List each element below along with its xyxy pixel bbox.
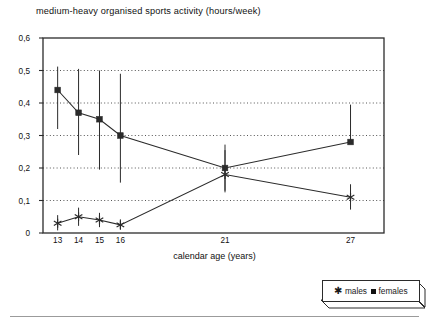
chart-plot-area bbox=[0, 0, 429, 323]
data-point-male bbox=[117, 220, 125, 229]
legend-label-females: females bbox=[379, 286, 408, 296]
series-line-females bbox=[58, 90, 351, 168]
legend-entry-males: ✱ males bbox=[334, 286, 367, 296]
series-line-males bbox=[58, 175, 351, 225]
data-point-female bbox=[97, 116, 103, 122]
x-tick-label: 15 bbox=[95, 236, 104, 245]
data-point-female bbox=[118, 133, 124, 139]
x-tick-label: 21 bbox=[220, 236, 229, 245]
page-divider bbox=[10, 316, 419, 317]
legend-label-males: males bbox=[345, 286, 367, 296]
x-tick-label: 14 bbox=[74, 236, 83, 245]
y-tick-label: 0,5 bbox=[4, 66, 30, 75]
y-tick-label: 0,4 bbox=[4, 99, 30, 108]
data-point-female bbox=[348, 139, 354, 145]
y-tick-label: 0 bbox=[4, 229, 30, 238]
square-marker-icon bbox=[371, 289, 376, 294]
data-point-female bbox=[222, 165, 228, 171]
data-point-female bbox=[55, 87, 61, 93]
legend: ✱ males females bbox=[322, 280, 420, 302]
x-axis-label: calendar age (years) bbox=[0, 251, 429, 261]
x-tick-label: 13 bbox=[53, 236, 62, 245]
y-tick-label: 0,1 bbox=[4, 196, 30, 205]
y-tick-label: 0,6 bbox=[4, 34, 30, 43]
y-tick-label: 0,2 bbox=[4, 164, 30, 173]
chart-container: medium-heavy organised sports activity (… bbox=[0, 0, 429, 323]
legend-entry-females: females bbox=[371, 286, 408, 296]
data-point-female bbox=[76, 110, 82, 116]
y-axis-ticks: 00,10,20,30,40,50,6 bbox=[0, 0, 30, 323]
data-point-male bbox=[54, 219, 62, 228]
asterisk-marker-icon: ✱ bbox=[334, 286, 342, 296]
y-tick-label: 0,3 bbox=[4, 131, 30, 140]
x-tick-label: 27 bbox=[346, 236, 355, 245]
x-tick-label: 16 bbox=[116, 236, 125, 245]
